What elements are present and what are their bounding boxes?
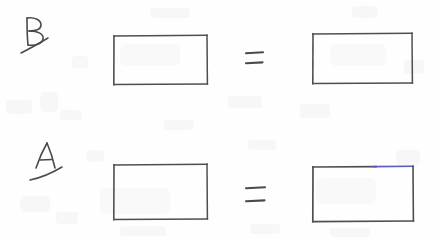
row-a-left-rectangle [114,164,208,219]
ink-layer [0,0,434,241]
row-a-right-rectangle [313,166,414,221]
worksheet-canvas: B = A = [0,0,434,241]
row-b-left-rectangle [114,35,208,84]
row-a-equals-sign [246,187,265,201]
row-b-equals-sign [246,52,263,63]
row-b [21,18,412,85]
row-b-label [21,18,48,53]
row-a [30,143,413,222]
row-b-right-rectangle [313,33,413,83]
row-a-label [30,143,62,180]
